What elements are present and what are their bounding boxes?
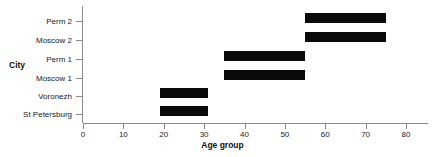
x-tick-mark xyxy=(245,124,246,129)
x-tick-label-70: 70 xyxy=(356,130,376,139)
x-tick-label-50: 50 xyxy=(275,130,295,139)
y-tick-mark xyxy=(76,59,82,60)
y-tick-label-perm-2: Perm 2 xyxy=(46,17,72,26)
bar-perm-1 xyxy=(224,51,305,61)
range-bar-chart: City Perm 2Moscow 2Perm 1Moscow 1Voronez… xyxy=(0,0,445,157)
bar-st-petersburg xyxy=(160,106,208,116)
bar-moscow-1 xyxy=(224,70,305,80)
y-tick-mark xyxy=(76,78,82,79)
x-tick-mark xyxy=(325,124,326,129)
x-tick-label-30: 30 xyxy=(194,130,214,139)
y-tick-mark xyxy=(76,114,82,115)
y-axis-title: City xyxy=(9,60,25,70)
y-tick-mark xyxy=(76,21,82,22)
x-axis-title: Age group xyxy=(0,140,445,150)
x-axis-line xyxy=(83,123,428,124)
x-tick-mark xyxy=(406,124,407,129)
y-tick-label-st-petersburg: St Petersburg xyxy=(23,110,72,119)
x-tick-label-60: 60 xyxy=(315,130,335,139)
y-tick-label-moscow-2: Moscow 2 xyxy=(36,36,72,45)
x-tick-mark xyxy=(164,124,165,129)
bar-moscow-2 xyxy=(305,32,386,42)
x-tick-label-0: 0 xyxy=(73,130,93,139)
x-tick-mark xyxy=(204,124,205,129)
y-axis-line xyxy=(82,6,83,123)
y-tick-label-voronezh: Voronezh xyxy=(38,92,72,101)
bar-perm-2 xyxy=(305,13,386,23)
x-tick-label-20: 20 xyxy=(154,130,174,139)
x-tick-label-40: 40 xyxy=(235,130,255,139)
y-tick-label-moscow-1: Moscow 1 xyxy=(36,74,72,83)
x-tick-mark xyxy=(285,124,286,129)
y-tick-mark xyxy=(76,40,82,41)
bar-voronezh xyxy=(160,88,208,98)
x-tick-mark xyxy=(366,124,367,129)
y-tick-label-perm-1: Perm 1 xyxy=(46,55,72,64)
x-tick-label-10: 10 xyxy=(113,130,133,139)
x-tick-mark xyxy=(123,124,124,129)
x-tick-mark xyxy=(83,124,84,129)
x-tick-label-80: 80 xyxy=(396,130,416,139)
y-tick-mark xyxy=(76,96,82,97)
